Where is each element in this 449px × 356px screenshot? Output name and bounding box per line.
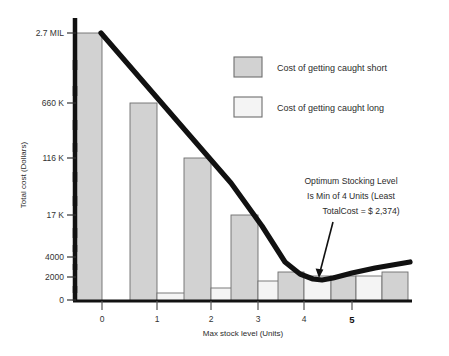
annotation-line-3: TotalCost = $ 2,374) — [322, 206, 399, 216]
bar-short-1 — [130, 103, 157, 301]
x-tick-label-2: 2 — [209, 314, 214, 324]
legend-swatch-short — [234, 57, 262, 77]
y-axis-title: Total cost (Dollars) — [19, 142, 28, 209]
y-tick-label-4000: 4000 — [45, 252, 64, 262]
legend-swatch-long — [234, 97, 262, 117]
x-tick-labels: 0 1 2 3 4 5 — [100, 314, 356, 325]
bar-short-6 — [382, 272, 408, 301]
y-tick-labels: 2.7 MIL 660 K 116 K 17 K 4000 2000 0 — [36, 28, 65, 305]
legend-label-short: Cost of getting caught short — [277, 63, 388, 73]
bar-short-2 — [184, 158, 211, 301]
y-tick-label-116000: 116 K — [42, 153, 64, 163]
bar-long-5 — [356, 276, 382, 301]
y-tick-label-660000: 660 K — [42, 98, 65, 108]
annotation-line-1: Optimum Stocking Level — [304, 176, 397, 186]
y-tick-label-2000: 2000 — [45, 272, 64, 282]
bar-short-3 — [231, 215, 258, 301]
x-tick-label-0: 0 — [100, 314, 105, 324]
x-tick-label-4: 4 — [302, 314, 307, 324]
x-axis-title: Max stock level (Units) — [203, 329, 284, 338]
x-tick-label-5: 5 — [349, 314, 355, 325]
y-tick-label-0: 0 — [59, 295, 64, 305]
legend: Cost of getting caught short Cost of get… — [234, 57, 388, 117]
bar-short-0 — [75, 33, 102, 301]
x-tick-label-1: 1 — [155, 314, 160, 324]
y-tick-label-17000: 17 K — [47, 210, 65, 220]
cost-vs-stock-level-chart: 2.7 MIL 660 K 116 K 17 K 4000 2000 0 0 1… — [0, 0, 449, 356]
annotation-line-2: Is Min of 4 Units (Least — [307, 191, 395, 201]
x-tick-label-3: 3 — [256, 314, 261, 324]
y-tick-label-2700000: 2.7 MIL — [36, 28, 65, 38]
optimum-annotation: Optimum Stocking Level Is Min of 4 Units… — [304, 176, 399, 278]
chart-figure: 2.7 MIL 660 K 116 K 17 K 4000 2000 0 0 1… — [0, 0, 449, 356]
legend-label-long: Cost of getting caught long — [277, 103, 384, 113]
annotation-arrow-shaft — [320, 222, 333, 272]
